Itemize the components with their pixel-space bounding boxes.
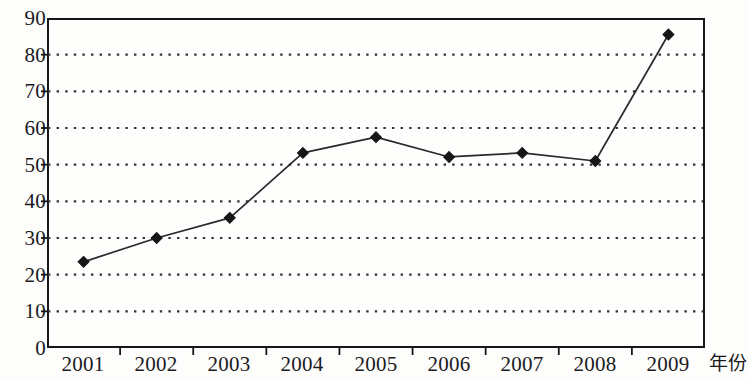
- x-axis-title: 年份: [709, 348, 747, 375]
- y-tick-label-10: 10: [4, 301, 46, 322]
- y-tick-label-80: 80: [4, 45, 46, 66]
- y-tick-label-90: 90: [4, 8, 46, 29]
- x-tick-label-2007: 2007: [482, 354, 562, 375]
- y-tick-label-20: 20: [4, 265, 46, 286]
- x-tick-label-2005: 2005: [336, 354, 416, 375]
- y-tick-label-70: 70: [4, 81, 46, 102]
- y-tick-label-40: 40: [4, 191, 46, 212]
- x-tick-label-2001: 2001: [43, 354, 123, 375]
- x-tick-label-2009: 2009: [628, 354, 708, 375]
- x-tick-label-2008: 2008: [555, 354, 635, 375]
- y-tick-label-30: 30: [4, 228, 46, 249]
- x-tick-label-2004: 2004: [262, 354, 342, 375]
- line-chart: 90 80 70 60 50 40 30 20 10 0 2001 2002 2…: [0, 0, 749, 380]
- y-tick-label-0: 0: [4, 338, 46, 359]
- x-tick-label-2003: 2003: [189, 354, 269, 375]
- y-tick-label-50: 50: [4, 155, 46, 176]
- plot-area: [47, 18, 705, 348]
- x-tick-label-2006: 2006: [409, 354, 489, 375]
- y-tick-label-60: 60: [4, 118, 46, 139]
- x-tick-label-2002: 2002: [116, 354, 196, 375]
